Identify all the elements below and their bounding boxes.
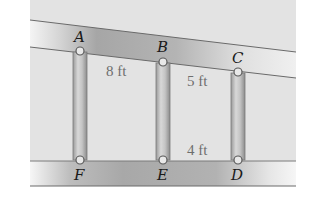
label-D: D: [230, 166, 243, 184]
pin-B: [159, 58, 167, 66]
pin-D: [234, 156, 242, 164]
dimension-ED: 4 ft: [187, 142, 208, 158]
post-BE: [156, 63, 170, 160]
label-A: A: [72, 28, 85, 46]
truss-diagram: A B C F E D 8 ft 5 ft 4 ft: [0, 0, 316, 204]
below-panel: [30, 187, 296, 204]
post-CD: [231, 73, 245, 160]
label-E: E: [156, 166, 168, 184]
post-AF: [73, 52, 87, 160]
label-F: F: [73, 166, 85, 184]
pin-F: [76, 156, 84, 164]
dimension-BE: 5 ft: [187, 73, 208, 89]
dimension-AF: 8 ft: [106, 63, 127, 79]
pin-A: [76, 47, 84, 55]
label-C: C: [232, 49, 244, 67]
label-B: B: [156, 38, 168, 56]
pin-E: [159, 156, 167, 164]
pin-C: [234, 68, 242, 76]
